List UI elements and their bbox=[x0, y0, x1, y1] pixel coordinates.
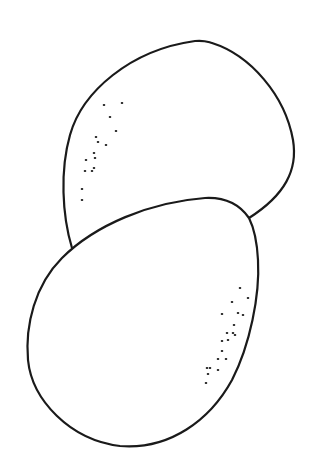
stipple-dot bbox=[205, 382, 208, 384]
stipple-dot bbox=[93, 152, 96, 154]
stipple-dot bbox=[97, 141, 100, 143]
stipple-dot bbox=[121, 102, 124, 104]
stipple-dot bbox=[81, 188, 84, 190]
stipple-dot bbox=[233, 324, 236, 326]
stipple-dot bbox=[234, 334, 237, 336]
lower-egg-outline bbox=[27, 198, 258, 446]
stipple-dot bbox=[206, 367, 209, 369]
stipple-dot bbox=[105, 144, 108, 146]
stipple-dot bbox=[217, 369, 220, 371]
stipple-dot bbox=[237, 312, 240, 314]
stipple-dot bbox=[227, 339, 230, 341]
stipple-dot bbox=[232, 332, 235, 334]
stipple-dot bbox=[93, 167, 96, 169]
egg-drawing bbox=[0, 0, 319, 467]
stipple-dot bbox=[91, 170, 94, 172]
stipple-dot bbox=[209, 367, 212, 369]
stipple-dot bbox=[85, 159, 88, 161]
stipple-dot bbox=[247, 297, 250, 299]
stipple-dot bbox=[226, 332, 229, 334]
stipple-dot bbox=[217, 358, 220, 360]
stipple-dot bbox=[221, 350, 224, 352]
stipple-dot bbox=[95, 136, 98, 138]
stipple-dot bbox=[221, 340, 224, 342]
stipple-dot bbox=[109, 116, 112, 118]
stipple-dot bbox=[231, 301, 234, 303]
stipple-dot bbox=[225, 358, 228, 360]
stipple-dot bbox=[221, 313, 224, 315]
stipple-dot bbox=[81, 199, 84, 201]
stipple-dot bbox=[239, 287, 242, 289]
stipple-dot bbox=[207, 373, 210, 375]
lower-egg bbox=[27, 198, 258, 446]
stipple-dot bbox=[115, 130, 118, 132]
stipple-dot bbox=[242, 314, 245, 316]
stipple-dot bbox=[84, 170, 87, 172]
stipple-dot bbox=[103, 104, 106, 106]
stipple-dot bbox=[94, 157, 97, 159]
